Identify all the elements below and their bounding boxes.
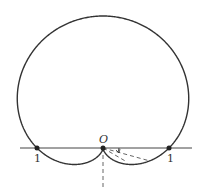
point-right <box>167 146 172 151</box>
point-origin <box>101 146 106 151</box>
angle-arc <box>118 148 119 152</box>
point-left <box>35 146 40 151</box>
ray-dashed-1 <box>103 148 150 161</box>
cardioid-diagram: O 1 1 <box>0 0 202 192</box>
right-point-label: 1 <box>167 152 174 165</box>
left-point-label: 1 <box>34 152 41 165</box>
origin-label: O <box>99 133 108 146</box>
